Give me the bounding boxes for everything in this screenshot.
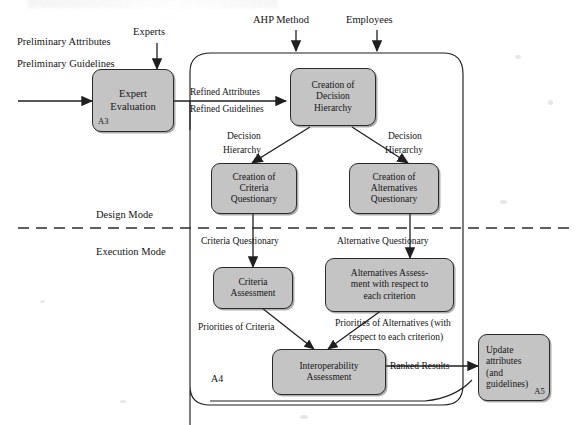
label-refined-guidelines: Refined Guidelines bbox=[190, 104, 264, 115]
box-creation-decision-hierarchy[interactable]: Creation of Decision Hierarchy bbox=[290, 68, 376, 126]
box-line: Creation of bbox=[311, 80, 354, 90]
box-line: guidelines) bbox=[486, 379, 528, 389]
box-line: Criteria bbox=[239, 183, 268, 193]
label-execution-mode: Execution Mode bbox=[96, 246, 166, 258]
box-line: Expert bbox=[119, 88, 147, 99]
label-decision-hierarchy-left-line2: Hierarchy bbox=[223, 145, 261, 156]
box-line: Decision bbox=[316, 91, 350, 101]
box-line: ment with respect to bbox=[351, 279, 428, 289]
box-line: Hierarchy bbox=[314, 103, 352, 113]
box-line: Questionary bbox=[231, 194, 277, 204]
box-creation-alternatives-questionary[interactable]: Creation of Alternatives Questionary bbox=[349, 163, 439, 214]
label-priorities-of-alternatives-line1: Priorities of Alternatives (with bbox=[335, 318, 451, 329]
label-preliminary-attributes: Preliminary Attributes bbox=[17, 36, 111, 48]
box-interoperability-assessment-text: Interoperability Assessment bbox=[296, 361, 361, 383]
box-line: Questionary bbox=[371, 194, 417, 204]
label-alternative-questionary-flow: Alternative Questionary bbox=[337, 236, 429, 247]
box-line: Criteria bbox=[238, 277, 267, 287]
box-line: Evaluation bbox=[110, 101, 156, 112]
label-design-mode: Design Mode bbox=[96, 209, 153, 221]
box-line: Alternatives bbox=[371, 183, 417, 193]
box-line: Creation of bbox=[232, 172, 275, 182]
box-criteria-assessment-text: Criteria Assessment bbox=[228, 277, 279, 299]
label-employees: Employees bbox=[346, 14, 393, 26]
box-line: Creation of bbox=[372, 172, 415, 182]
box-alternatives-assessment[interactable]: Alternatives Assess- ment with respect t… bbox=[325, 258, 454, 312]
box-line: Update bbox=[486, 345, 513, 355]
box-code-a3: A3 bbox=[98, 117, 109, 127]
box-line: each criterion bbox=[364, 291, 416, 301]
box-line: Assessment bbox=[231, 288, 276, 298]
box-expert-evaluation-text: Expert Evaluation bbox=[107, 88, 159, 112]
box-code-a5: A5 bbox=[534, 387, 545, 397]
process-flow-diagram: Expert Evaluation A3 Creation of Decisio… bbox=[0, 0, 581, 425]
box-line: Assessment bbox=[307, 372, 352, 382]
box-criteria-assessment[interactable]: Criteria Assessment bbox=[213, 267, 293, 309]
label-priorities-of-criteria: Priorities of Criteria bbox=[198, 322, 275, 333]
label-priorities-of-alternatives-line2: respect to each criterion) bbox=[349, 332, 443, 343]
box-update-attributes[interactable]: Update attributes (and guidelines) A5 bbox=[478, 334, 550, 401]
label-decision-hierarchy-right-line1: Decision bbox=[388, 131, 422, 142]
box-alternatives-assessment-text: Alternatives Assess- ment with respect t… bbox=[348, 268, 431, 301]
box-expert-evaluation[interactable]: Expert Evaluation A3 bbox=[92, 69, 174, 132]
label-container-code-a4: A4 bbox=[211, 373, 223, 385]
box-line: (and bbox=[486, 368, 503, 378]
label-ahp-method: AHP Method bbox=[253, 14, 309, 26]
box-interoperability-assessment[interactable]: Interoperability Assessment bbox=[272, 349, 386, 395]
label-refined-attributes: Refined Attributes bbox=[190, 87, 260, 98]
box-decision-hierarchy-text: Creation of Decision Hierarchy bbox=[308, 80, 357, 113]
box-line: Interoperability bbox=[299, 361, 358, 371]
label-criteria-questionary-flow: Criteria Questionary bbox=[201, 236, 279, 247]
box-update-attributes-text: Update attributes (and guidelines) bbox=[479, 345, 531, 389]
label-experts: Experts bbox=[133, 26, 165, 38]
label-ranked-results: Ranked Results bbox=[390, 361, 449, 372]
label-preliminary-guidelines: Preliminary Guidelines bbox=[17, 58, 115, 70]
label-decision-hierarchy-left-line1: Decision bbox=[227, 131, 261, 142]
box-criteria-questionary-text: Creation of Criteria Questionary bbox=[228, 172, 280, 205]
box-alternatives-questionary-text: Creation of Alternatives Questionary bbox=[368, 172, 420, 205]
box-line: attributes bbox=[486, 356, 521, 366]
label-decision-hierarchy-right-line2: Hierarchy bbox=[385, 145, 423, 156]
box-line: Alternatives Assess- bbox=[351, 268, 428, 278]
box-creation-criteria-questionary[interactable]: Creation of Criteria Questionary bbox=[211, 163, 297, 214]
